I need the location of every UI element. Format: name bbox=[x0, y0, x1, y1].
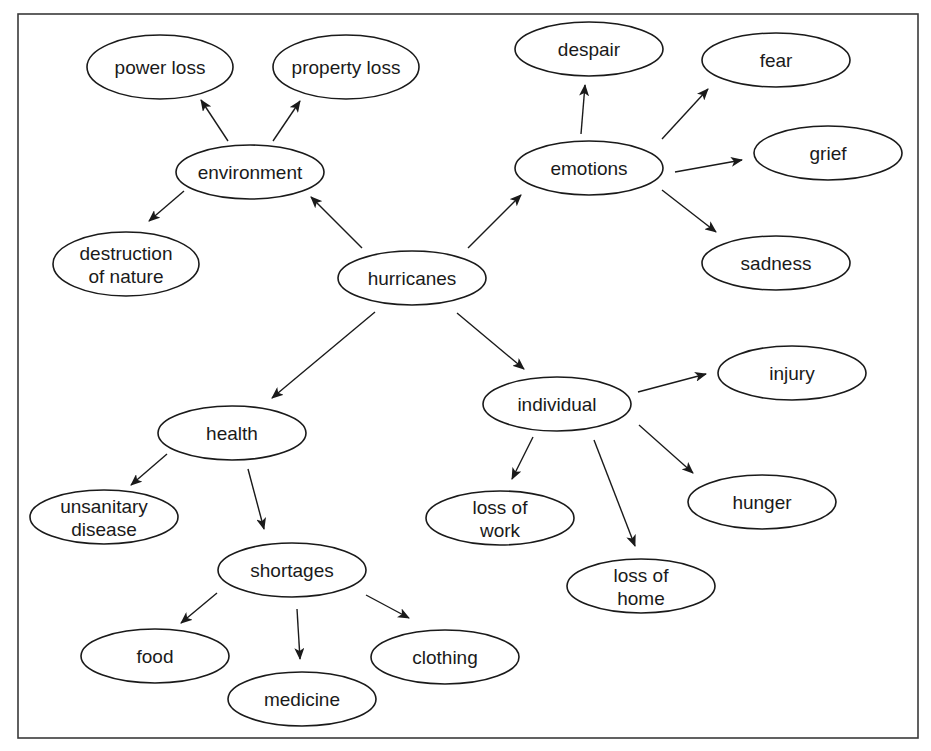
node-label: property loss bbox=[292, 57, 401, 78]
node-hurricanes: hurricanes bbox=[338, 251, 486, 305]
arrow-health-to-unsanitary-disease bbox=[131, 454, 167, 485]
arrow-emotions-to-despair bbox=[581, 85, 585, 134]
node-hunger: hunger bbox=[688, 475, 836, 529]
node-label: food bbox=[137, 646, 174, 667]
node-unsanitary-disease: unsanitarydisease bbox=[30, 490, 178, 544]
node-label: grief bbox=[810, 143, 848, 164]
arrow-individual-to-hunger bbox=[639, 425, 693, 473]
node-shortages: shortages bbox=[218, 543, 366, 597]
arrow-environment-to-power-loss bbox=[201, 100, 228, 141]
node-injury: injury bbox=[718, 346, 866, 400]
node-label: sadness bbox=[741, 253, 812, 274]
nodes-layer: hurricanesenvironmentpower lossproperty … bbox=[30, 22, 902, 726]
node-destruction-of-nature: destructionof nature bbox=[53, 232, 199, 296]
node-label: shortages bbox=[250, 560, 333, 581]
arrow-hurricanes-to-environment bbox=[311, 197, 362, 248]
node-emotions: emotions bbox=[515, 141, 663, 195]
node-loss-of-home: loss ofhome bbox=[567, 559, 715, 613]
node-label: home bbox=[617, 588, 665, 609]
arrow-hurricanes-to-individual bbox=[457, 313, 524, 369]
node-label: environment bbox=[198, 162, 303, 183]
node-clothing: clothing bbox=[371, 630, 519, 684]
arrow-individual-to-loss-of-home bbox=[594, 440, 635, 546]
concept-map-diagram: hurricanesenvironmentpower lossproperty … bbox=[0, 0, 931, 751]
arrow-individual-to-injury bbox=[638, 374, 706, 392]
node-power-loss: power loss bbox=[87, 35, 233, 99]
node-health: health bbox=[158, 406, 306, 460]
arrow-emotions-to-fear bbox=[662, 89, 708, 139]
node-label: hunger bbox=[732, 492, 792, 513]
arrow-shortages-to-food bbox=[181, 593, 217, 623]
node-label: work bbox=[479, 520, 521, 541]
node-label: of nature bbox=[89, 266, 164, 287]
arrow-emotions-to-sadness bbox=[662, 190, 716, 232]
node-loss-of-work: loss ofwork bbox=[426, 491, 574, 545]
node-label: hurricanes bbox=[368, 268, 457, 289]
arrow-environment-to-property-loss bbox=[273, 101, 300, 141]
arrow-environment-to-destruction-of-nature bbox=[149, 191, 184, 221]
arrow-shortages-to-clothing bbox=[366, 595, 409, 618]
node-label: power loss bbox=[115, 57, 206, 78]
node-label: fear bbox=[760, 50, 793, 71]
node-label: loss of bbox=[614, 565, 670, 586]
node-label: injury bbox=[769, 363, 815, 384]
arrow-individual-to-loss-of-work bbox=[512, 437, 533, 479]
node-label: emotions bbox=[550, 158, 627, 179]
node-label: health bbox=[206, 423, 258, 444]
node-label: clothing bbox=[412, 647, 478, 668]
node-sadness: sadness bbox=[702, 236, 850, 290]
node-environment: environment bbox=[176, 145, 324, 199]
node-label: individual bbox=[517, 394, 596, 415]
node-individual: individual bbox=[483, 377, 631, 431]
arrow-hurricanes-to-emotions bbox=[468, 195, 521, 248]
node-food: food bbox=[81, 629, 229, 683]
node-label: medicine bbox=[264, 689, 340, 710]
node-fear: fear bbox=[702, 33, 850, 87]
node-label: despair bbox=[558, 39, 621, 60]
node-medicine: medicine bbox=[228, 672, 376, 726]
node-label: unsanitary bbox=[60, 496, 148, 517]
node-despair: despair bbox=[515, 22, 663, 76]
node-grief: grief bbox=[754, 126, 902, 180]
arrow-emotions-to-grief bbox=[675, 160, 742, 172]
node-label: loss of bbox=[473, 497, 529, 518]
arrow-hurricanes-to-health bbox=[272, 312, 375, 398]
arrow-health-to-shortages bbox=[248, 469, 264, 529]
node-property-loss: property loss bbox=[273, 35, 419, 99]
node-label: disease bbox=[71, 519, 137, 540]
node-label: destruction bbox=[80, 243, 173, 264]
arrow-shortages-to-medicine bbox=[297, 609, 300, 659]
